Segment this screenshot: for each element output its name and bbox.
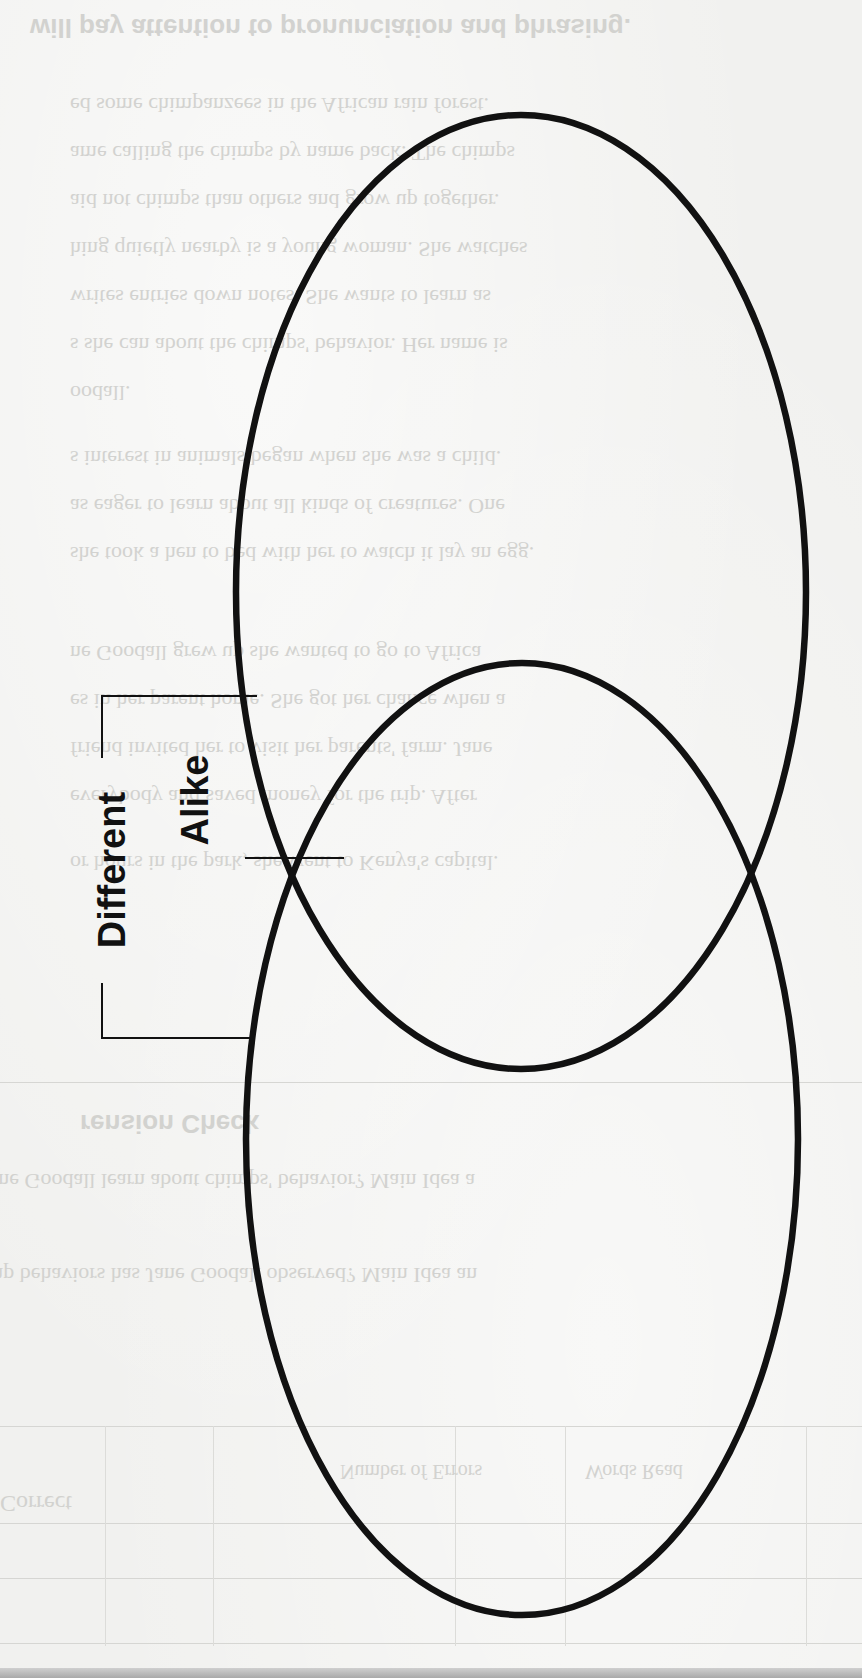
different-bracket-bottom xyxy=(102,983,252,1038)
venn-ellipse-bottom xyxy=(246,663,798,1615)
different-label: Different xyxy=(90,750,134,990)
alike-label: Alike xyxy=(173,735,217,865)
venn-ellipse-top xyxy=(236,115,806,1069)
scan-edge-strip xyxy=(0,1668,862,1678)
worksheet-page: will pay attention to pronunciation and … xyxy=(0,0,862,1678)
